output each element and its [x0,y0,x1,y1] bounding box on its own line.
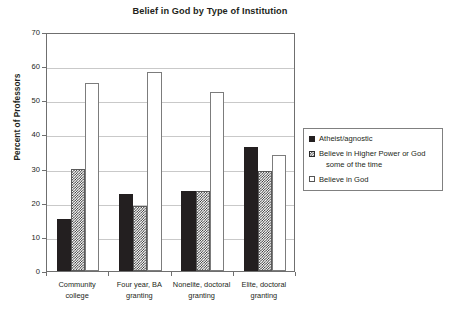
bar-0-1 [119,194,133,271]
x-tick-mark [233,272,234,276]
x-category-label-line: Elite, doctoral [229,280,299,291]
legend-swatch-icon [309,176,315,182]
x-category-label: Four year, BAgranting [104,280,174,301]
bar-1-3 [258,171,272,271]
bar-0-2 [181,191,195,271]
y-tick-mark [42,204,46,205]
x-category-label-line: Four year, BA [104,280,174,291]
x-category-label: Elite, doctoralgranting [229,280,299,301]
y-tick-mark [42,33,46,34]
gridline [47,102,294,103]
bar-2-0 [85,83,99,271]
chart-container: Belief in God by Type of Institution 010… [0,0,460,313]
y-tick-mark [42,67,46,68]
x-category-label-line: college [42,291,112,302]
y-tick-mark [42,135,46,136]
y-tick-label: 10 [10,234,40,242]
bar-1-1 [133,206,147,271]
x-tick-mark [171,272,172,276]
gridline [47,136,294,137]
legend-item-1: Believe in Higher Power or Godsome of th… [309,149,436,170]
legend-item-0: Atheist/agnostic [309,134,436,144]
bar-0-3 [244,147,258,271]
legend-label-line2: some of the time [319,160,425,170]
x-category-label-line: Nonelite, doctoral [167,280,237,291]
bar-2-3 [272,155,286,271]
y-tick-label: 0 [10,268,40,276]
bars-layer [47,34,294,271]
bar-1-2 [196,191,210,271]
x-category-label-line: granting [104,291,174,302]
legend-label: Believe in God [319,175,368,185]
x-category-label-line: Community [42,280,112,291]
legend-item-2: Believe in God [309,175,436,185]
bar-0-0 [57,219,71,271]
legend-swatch-icon [309,151,315,157]
y-axis-title: Percent of Professors [12,52,22,182]
x-tick-mark [295,272,296,276]
x-category-label-line: granting [229,291,299,302]
legend-label: Atheist/agnostic [319,134,373,144]
chart-legend: Atheist/agnosticBelieve in Higher Power … [303,128,443,191]
y-tick-mark [42,238,46,239]
chart-title: Belief in God by Type of Institution [0,6,420,16]
bar-2-2 [210,92,224,271]
y-tick-label: 70 [10,29,40,37]
y-tick-mark [42,101,46,102]
gridline [47,68,294,69]
y-tick-label: 20 [10,200,40,208]
y-tick-mark [42,170,46,171]
bar-2-1 [147,72,161,271]
bar-1-0 [71,169,85,271]
x-category-label: Nonelite, doctoralgranting [167,280,237,301]
plot-area [46,33,295,272]
x-category-label-line: granting [167,291,237,302]
x-tick-mark [46,272,47,276]
x-category-label: Communitycollege [42,280,112,301]
legend-label: Believe in Higher Power or Godsome of th… [319,149,425,170]
footer-partial-text [78,304,268,308]
legend-swatch-icon [309,136,315,142]
x-tick-mark [108,272,109,276]
